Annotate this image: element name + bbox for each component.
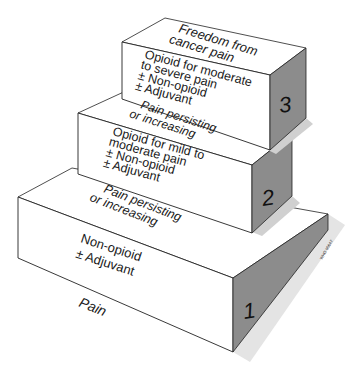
base-pain-label: Pain xyxy=(77,294,109,319)
analgesic-ladder-diagram: 3 2 1 Freedom from cancer pain Opioid fo… xyxy=(0,0,351,367)
